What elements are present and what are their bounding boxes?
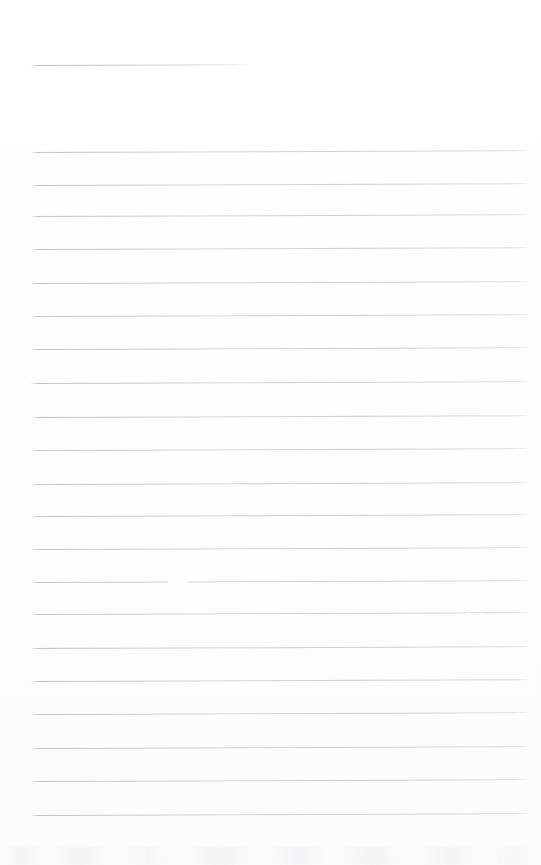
rule-line	[31, 712, 528, 715]
rule-line	[31, 314, 528, 317]
rule-line	[31, 247, 528, 250]
rule-line	[31, 514, 528, 517]
scanned-page	[0, 0, 541, 865]
rule-line	[31, 779, 528, 782]
rule-line	[31, 448, 528, 451]
rule-line	[31, 612, 528, 615]
rule-line	[31, 183, 528, 186]
rule-line	[31, 646, 528, 649]
rule-line	[31, 64, 250, 66]
rule-line	[31, 150, 528, 153]
ruled-lines-group	[0, 0, 541, 865]
rule-line-gap	[466, 613, 482, 616]
rule-line	[31, 214, 528, 217]
rule-line	[31, 482, 528, 485]
rule-line-gap	[168, 581, 188, 584]
rule-line	[31, 281, 528, 284]
rule-line	[31, 347, 528, 350]
rule-line	[31, 580, 528, 583]
rule-line	[31, 381, 528, 384]
rule-line	[31, 746, 528, 749]
rule-line	[31, 679, 528, 682]
rule-line	[31, 547, 528, 550]
rule-line	[31, 813, 528, 816]
rule-line	[31, 415, 528, 418]
